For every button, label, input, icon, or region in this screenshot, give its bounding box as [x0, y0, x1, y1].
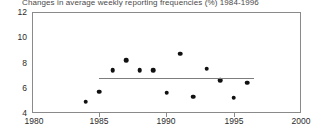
y-tick-label: 6: [22, 83, 27, 93]
y-axis-tick-labels: 12 10 8 6 4: [0, 0, 27, 138]
x-tick-label: 1995: [225, 116, 244, 126]
plot-area: [32, 12, 301, 113]
x-tick-label: 1990: [157, 116, 176, 126]
x-tick-label: 1980: [25, 116, 44, 126]
chart-figure: Changes in average weekly reporting freq…: [0, 0, 327, 138]
y-tick-label: 8: [22, 58, 27, 68]
chart-title: Changes in average weekly reporting freq…: [22, 0, 259, 7]
y-tick-label: 10: [18, 32, 27, 42]
x-tick-label: 1985: [90, 116, 109, 126]
x-tick-label: 2000: [292, 116, 311, 126]
trend-line: [99, 78, 254, 79]
y-tick-label: 12: [18, 7, 27, 17]
